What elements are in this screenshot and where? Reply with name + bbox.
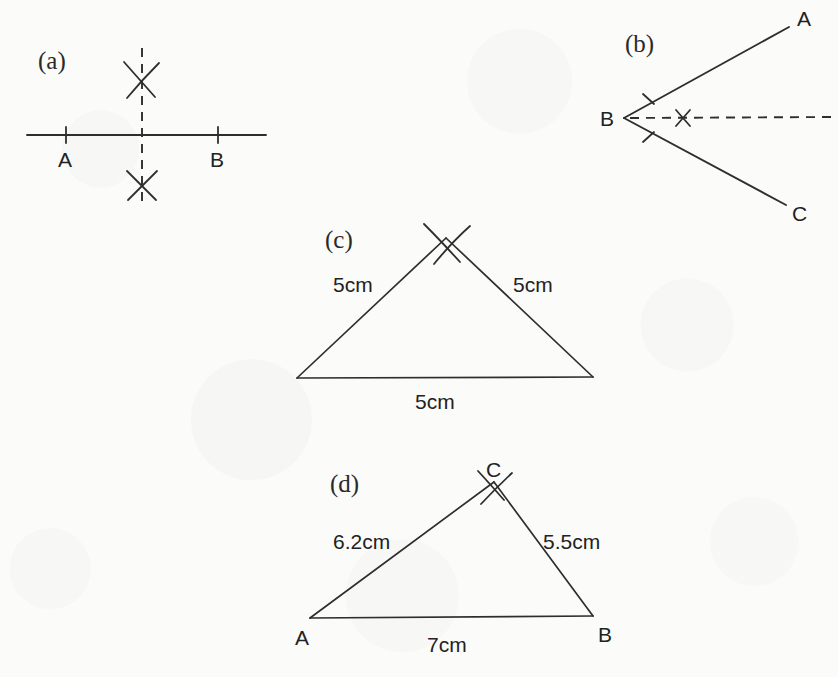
panel-c-side-right bbox=[446, 238, 593, 377]
panel-b-tick-upper-ray bbox=[643, 94, 654, 104]
panel-d-length-cb: 5.5cm bbox=[543, 530, 600, 553]
panel-c-side-left bbox=[297, 238, 446, 378]
panel-d-length-ac: 6.2cm bbox=[333, 530, 390, 553]
panel-c-length-right: 5cm bbox=[513, 273, 553, 296]
panel-b-tick-lower-ray bbox=[643, 132, 654, 142]
panel-d-label-a: A bbox=[295, 626, 309, 649]
panel-b-label-a: A bbox=[797, 7, 811, 30]
panel-c: (c) 5cm 5cm 5cm bbox=[297, 224, 593, 413]
panel-b-label-b: B bbox=[600, 107, 614, 130]
panel-d-tag: (d) bbox=[330, 470, 359, 498]
panel-c-arc-cross-apex bbox=[424, 224, 470, 264]
panel-c-tag: (c) bbox=[325, 226, 353, 254]
panel-c-side-base bbox=[297, 377, 593, 378]
panel-d-label-b: B bbox=[598, 623, 612, 646]
panel-c-length-left: 5cm bbox=[333, 273, 373, 296]
panel-d: (d) A B C 6.2cm 5.5cm 7cm bbox=[295, 458, 612, 656]
panel-b-tag: (b) bbox=[625, 30, 654, 58]
panel-a-label-b: B bbox=[210, 148, 224, 171]
figure-page: (a) A B (b) bbox=[0, 0, 838, 677]
panel-c-length-base: 5cm bbox=[415, 390, 455, 413]
panel-b-label-c: C bbox=[792, 202, 807, 225]
panel-b-ray-bc bbox=[624, 118, 786, 205]
panel-a: (a) A B bbox=[27, 47, 266, 207]
panel-d-length-ab: 7cm bbox=[427, 633, 467, 656]
panel-b: (b) A B C bbox=[600, 7, 831, 225]
geometry-constructions-figure: (a) A B (b) bbox=[0, 0, 838, 677]
panel-b-angle-bisector bbox=[630, 117, 831, 118]
panel-a-tag: (a) bbox=[38, 47, 66, 75]
panel-a-label-a: A bbox=[58, 148, 72, 171]
panel-d-label-c: C bbox=[486, 458, 501, 481]
panel-d-side-ab bbox=[310, 616, 593, 618]
